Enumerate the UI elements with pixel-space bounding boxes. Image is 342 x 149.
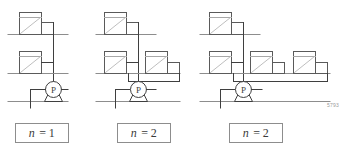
case-label-1-value: 1: [49, 126, 56, 141]
case-label-3-value: 2: [263, 126, 270, 141]
figure-id-number: 5793: [327, 102, 339, 108]
group-2-drawing: P: [96, 13, 180, 109]
case-label-1: n = 1: [15, 123, 69, 143]
case-label-2-variable: n: [131, 126, 140, 141]
pump-symbol-3: P: [235, 82, 253, 102]
case-label-2-equals: =: [139, 126, 150, 141]
case-label-2: n = 2: [117, 123, 171, 143]
case-label-3-variable: n: [243, 126, 252, 141]
group-1-drawing: P: [8, 13, 68, 109]
case-label-1-variable: n: [29, 126, 38, 141]
pump-label-1: P: [51, 85, 56, 95]
pump-symbol-2: P: [130, 82, 148, 102]
case-label-2-value: 2: [151, 126, 158, 141]
case-label-3-equals: =: [251, 126, 262, 141]
group-3-drawing: P: [200, 13, 330, 109]
figure-canvas: P: [0, 0, 342, 149]
pump-label-3: P: [241, 85, 246, 95]
pump-symbol-1: P: [45, 82, 63, 102]
case-label-3: n = 2: [229, 123, 283, 143]
case-label-1-equals: =: [37, 126, 48, 141]
pump-label-2: P: [136, 85, 141, 95]
